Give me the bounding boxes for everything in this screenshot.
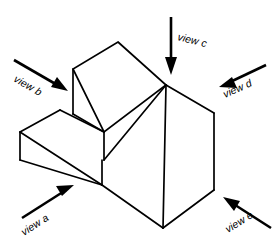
- technical-drawing-figure: view a view b view c view d view e: [0, 0, 278, 249]
- label-view-e: view e: [223, 208, 255, 234]
- arrow-view-e-head: [223, 197, 240, 211]
- arrow-view-b-head: [51, 77, 68, 91]
- arrow-view-c: [165, 17, 177, 75]
- label-view-a: view a: [19, 211, 51, 238]
- isometric-solid-diagram: view a view b view c view d view e: [0, 0, 278, 249]
- label-view-c: view c: [177, 30, 209, 49]
- arrow-view-a: [22, 185, 74, 218]
- arrow-view-c-head: [165, 57, 177, 75]
